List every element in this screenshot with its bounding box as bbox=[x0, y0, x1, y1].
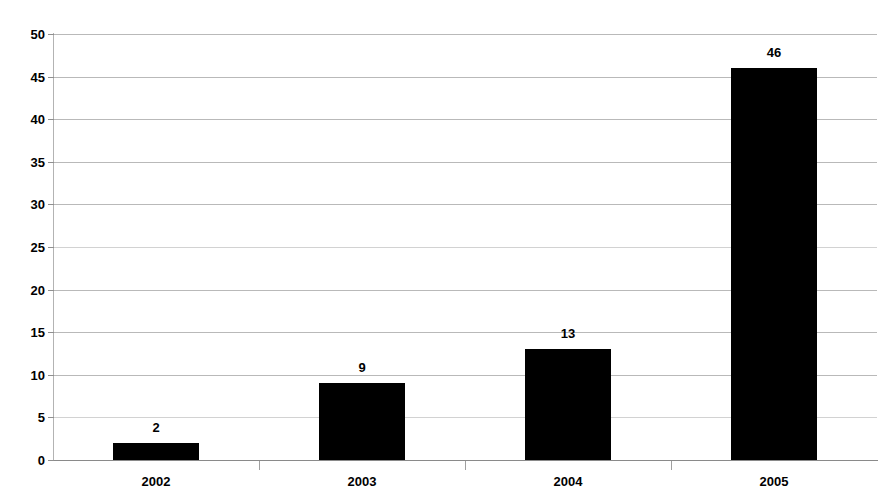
bar-value-label: 9 bbox=[322, 361, 402, 375]
bar[interactable] bbox=[731, 68, 817, 460]
x-axis-category-label: 2003 bbox=[312, 474, 412, 489]
y-axis-tick-label: 40 bbox=[5, 113, 45, 126]
x-axis-tick-mark bbox=[465, 461, 466, 470]
y-axis-tick-mark bbox=[48, 34, 54, 35]
x-axis-category-label: 2005 bbox=[724, 474, 824, 489]
y-axis-tick-label: 5 bbox=[5, 411, 45, 424]
y-axis-tick-mark bbox=[48, 204, 54, 205]
y-axis-tick-mark bbox=[48, 332, 54, 333]
y-axis-tick-label: 35 bbox=[5, 156, 45, 169]
y-axis-tick-mark bbox=[48, 119, 54, 120]
y-axis-tick-mark bbox=[48, 375, 54, 376]
x-axis-tick-mark bbox=[671, 461, 672, 470]
y-axis-tick-mark bbox=[48, 247, 54, 248]
y-axis-tick-label: 0 bbox=[5, 454, 45, 467]
x-axis-tick-mark bbox=[259, 461, 260, 470]
bar[interactable] bbox=[525, 349, 611, 460]
bar[interactable] bbox=[113, 443, 199, 460]
bar-value-label: 13 bbox=[528, 327, 608, 341]
y-axis-tick-label: 20 bbox=[5, 284, 45, 297]
x-axis-category-label: 2004 bbox=[518, 474, 618, 489]
y-axis-tick-label: 10 bbox=[5, 369, 45, 382]
bar-value-label: 2 bbox=[116, 421, 196, 435]
gridline bbox=[53, 34, 877, 35]
bar-value-label: 46 bbox=[734, 46, 814, 60]
y-axis-tick-mark bbox=[48, 77, 54, 78]
y-axis-tick-label: 50 bbox=[5, 28, 45, 41]
y-axis-tick-mark bbox=[48, 417, 54, 418]
y-axis-tick-label: 45 bbox=[5, 71, 45, 84]
bar[interactable] bbox=[319, 383, 405, 460]
y-axis-tick-label: 25 bbox=[5, 241, 45, 254]
y-axis-tick-label: 15 bbox=[5, 326, 45, 339]
y-axis-ticks: 50454035302520151050 bbox=[0, 0, 45, 504]
x-axis-category-label: 2002 bbox=[106, 474, 206, 489]
bar-chart: 50454035302520151050 291346 200220032004… bbox=[0, 0, 892, 504]
y-axis-tick-mark bbox=[48, 162, 54, 163]
y-axis-tick-mark bbox=[48, 460, 54, 461]
y-axis-tick-label: 30 bbox=[5, 198, 45, 211]
y-axis-tick-mark bbox=[48, 290, 54, 291]
